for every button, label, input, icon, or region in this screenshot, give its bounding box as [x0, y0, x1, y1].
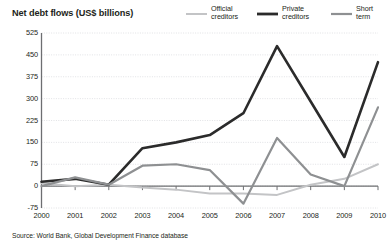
x-tick-label: 2008: [294, 211, 328, 220]
x-tick-label: 2000: [25, 211, 59, 220]
x-tick-label: 2003: [125, 211, 159, 220]
x-tick-label: 2007: [260, 211, 294, 220]
x-tick-label: 2010: [361, 211, 391, 220]
source-note: Source: World Bank, Global Development F…: [12, 232, 188, 239]
x-tick-label: 2005: [193, 211, 227, 220]
x-tick-label: 2002: [92, 211, 126, 220]
x-tick-label: 2009: [327, 211, 361, 220]
x-tick-label: 2004: [159, 211, 193, 220]
x-tick-label: 2006: [226, 211, 260, 220]
x-tick-label: 2001: [58, 211, 92, 220]
